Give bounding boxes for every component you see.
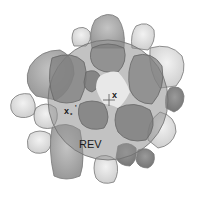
grain-left	[11, 94, 36, 118]
neighbor-point-x: x	[64, 106, 69, 116]
center-point-label: x	[112, 90, 117, 100]
rev-diagram: x x * ' REV	[0, 0, 197, 197]
inner-grain-bottom-left	[78, 101, 108, 129]
inner-grain-left	[49, 55, 86, 103]
grain-left-lower	[27, 131, 51, 153]
inner-grain-right	[129, 54, 163, 104]
rev-label: REV	[79, 138, 102, 150]
